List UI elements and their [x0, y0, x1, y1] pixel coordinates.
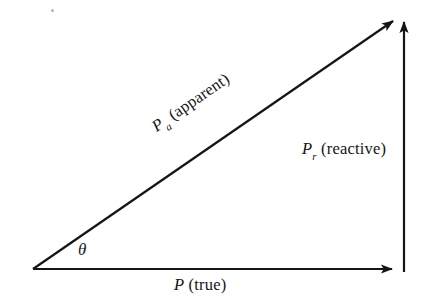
true-power-qualifier-text: (true) — [189, 275, 227, 294]
reactive-power-symbol: P — [302, 139, 312, 158]
reactive-power-subscript: r — [312, 150, 316, 162]
angle-theta-label: θ — [78, 240, 87, 260]
power-triangle-figure: Pa (apparent) Pr (reactive) P (true) θ — [0, 0, 429, 304]
true-power-symbol: P — [174, 275, 184, 294]
reactive-power-label: Pr (reactive) — [302, 139, 386, 160]
true-power-label: P (true) — [174, 275, 226, 295]
scan-artifact-speck — [51, 9, 54, 12]
reactive-power-qualifier-text: (reactive) — [321, 139, 386, 158]
